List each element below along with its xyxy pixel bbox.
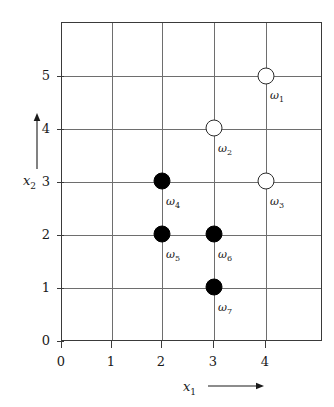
gridline-horizontal-y5 <box>62 76 321 77</box>
point-label-omega-4-index: 4 <box>175 201 180 210</box>
datapoint-omega-4 <box>154 173 171 190</box>
ticklabel-y-1: 1 <box>34 281 50 294</box>
point-label-omega-3-index: 3 <box>279 201 284 210</box>
point-label-omega-7: ω7 <box>218 302 232 317</box>
ticklabel-x-4: 4 <box>257 355 273 368</box>
ticklabel-y-2: 2 <box>34 228 50 241</box>
point-label-omega-2: ω2 <box>218 143 232 158</box>
tick-y-4 <box>57 129 64 130</box>
gridline-horizontal-y1 <box>62 288 321 289</box>
tick-x-3 <box>213 341 214 348</box>
gridline-horizontal-y4 <box>62 129 321 130</box>
ticklabel-y-0: 0 <box>34 334 50 347</box>
tick-y-1 <box>57 288 64 289</box>
point-label-omega-1-index: 1 <box>279 95 284 104</box>
axis-label-x: x1 <box>183 380 196 399</box>
datapoint-omega-2 <box>206 120 223 137</box>
ticklabel-y-5: 5 <box>34 69 50 82</box>
point-label-omega-7-index: 7 <box>227 307 232 316</box>
axis-label-y-index: 2 <box>30 181 36 191</box>
axis-label-y: x2 <box>23 174 36 193</box>
point-label-omega-4: ω4 <box>166 196 180 211</box>
point-label-omega-4-symbol: ω <box>166 195 175 208</box>
scatter-plot-figure: 5 4 3 2 1 0 0 1 2 3 4 ω1 ω2 ω3 ω4 ω5 ω6 … <box>0 0 334 407</box>
tick-x-0 <box>61 341 62 348</box>
datapoint-omega-5 <box>154 226 171 243</box>
tick-x-2 <box>161 341 162 348</box>
point-label-omega-7-symbol: ω <box>218 301 227 314</box>
tick-y-5 <box>57 76 64 77</box>
point-label-omega-5: ω5 <box>166 249 180 264</box>
point-label-omega-5-index: 5 <box>175 254 180 263</box>
tick-x-4 <box>265 341 266 348</box>
point-label-omega-2-index: 2 <box>227 148 232 157</box>
axis-label-x-index: 1 <box>190 387 196 397</box>
point-label-omega-6-symbol: ω <box>218 248 227 261</box>
point-label-omega-3: ω3 <box>270 196 284 211</box>
plot-area <box>61 22 322 341</box>
up-arrow-icon <box>30 113 44 170</box>
ticklabel-x-2: 2 <box>153 355 169 368</box>
ticklabel-x-1: 1 <box>103 355 119 368</box>
tick-x-1 <box>111 341 112 348</box>
ticklabel-x-3: 3 <box>205 355 221 368</box>
point-label-omega-3-symbol: ω <box>270 195 279 208</box>
point-label-omega-6: ω6 <box>218 249 232 264</box>
point-label-omega-6-index: 6 <box>227 254 232 263</box>
datapoint-omega-7 <box>206 279 223 296</box>
ticklabel-y-3: 3 <box>34 175 50 188</box>
point-label-omega-2-symbol: ω <box>218 142 227 155</box>
datapoint-omega-6 <box>206 226 223 243</box>
tick-y-3 <box>57 182 64 183</box>
ticklabel-x-0: 0 <box>53 355 69 368</box>
gridline-horizontal-y3 <box>62 182 321 183</box>
datapoint-omega-1 <box>258 68 275 85</box>
point-label-omega-1: ω1 <box>270 90 284 105</box>
right-arrow-icon <box>207 379 264 393</box>
point-label-omega-1-symbol: ω <box>270 89 279 102</box>
tick-y-2 <box>57 235 64 236</box>
datapoint-omega-3 <box>258 173 275 190</box>
point-label-omega-5-symbol: ω <box>166 248 175 261</box>
gridline-horizontal-y2 <box>62 235 321 236</box>
